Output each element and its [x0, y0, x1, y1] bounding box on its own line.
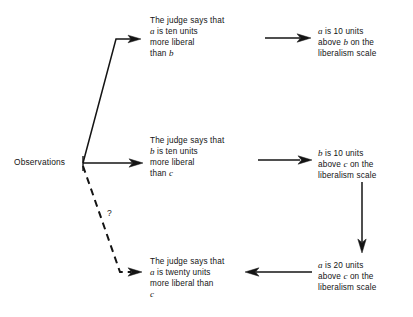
- node-scale-bc-line1-text: is 10 units: [323, 149, 364, 158]
- node-judge-bc-line1: The judge says that: [150, 136, 224, 146]
- node-judge-bc-line2-text: is ten units: [155, 147, 198, 156]
- node-judge-says-a-twenty-units: The judge says that a is twenty units mo…: [150, 257, 224, 300]
- node-judge-bc-line3: more liberal: [150, 158, 224, 168]
- node-judge-bc-line4-text: than: [150, 169, 169, 178]
- node-scale-b-above-c: b is 10 units above c on the liberalism …: [318, 148, 376, 181]
- node-judge-ac-line3: more liberal than: [150, 279, 224, 289]
- node-observations-label: Observations: [14, 157, 65, 167]
- variable-c: c: [150, 289, 154, 299]
- node-judge-ac-line2-text: is twenty units: [155, 268, 211, 277]
- node-scale-a-above-b: a is 10 units above b on the liberalism …: [318, 26, 376, 59]
- edge-observations-to-judge-ac: [83, 166, 142, 276]
- node-judge-bc-line2: b is ten units: [150, 146, 224, 157]
- edge-observations-to-judge-ab: [83, 35, 141, 163]
- node-judge-says-a-ten-units: The judge says that a is ten units more …: [150, 16, 224, 59]
- node-judge-ac-line4: c: [150, 289, 224, 300]
- node-judge-ab-line2: a is ten units: [150, 26, 224, 37]
- node-scale-ab-line3: liberalism scale: [318, 49, 376, 59]
- node-judge-ab-line3: more liberal: [150, 38, 224, 48]
- node-scale-ac-line2-pre: above: [318, 272, 343, 281]
- node-scale-ac-line1-text: is 20 units: [323, 261, 364, 270]
- node-scale-ab-line1-text: is 10 units: [323, 27, 364, 36]
- node-scale-a-above-c: a is 20 units above c on the liberalism …: [318, 260, 376, 293]
- edge-scale-ac-to-judge-ac: [245, 268, 312, 276]
- node-scale-ac-line2-post: on the: [347, 272, 373, 281]
- node-judge-says-b-ten-units: The judge says that b is ten units more …: [150, 136, 224, 179]
- node-judge-ac-line2: a is twenty units: [150, 267, 224, 278]
- node-scale-ab-line1: a is 10 units: [318, 26, 376, 37]
- edge-label-question-mark: ?: [107, 208, 112, 218]
- node-judge-ab-line4-text: than: [150, 49, 169, 58]
- edge-judge-bc-to-scale-bc: [258, 156, 312, 164]
- arrowhead-icon: [298, 156, 312, 164]
- edge-scale-bc-to-scale-ac: [358, 182, 366, 253]
- variable-c: c: [169, 168, 173, 178]
- edge-judge-ab-to-scale-ab: [265, 34, 311, 42]
- node-scale-ac-line2: above c on the: [318, 271, 376, 282]
- node-scale-bc-line2-pre: above: [318, 160, 343, 169]
- edge-observations-to-judge-bc: [83, 159, 143, 167]
- node-scale-ab-line2: above b on the: [318, 37, 376, 48]
- node-scale-ab-line2-post: on the: [348, 38, 374, 47]
- node-scale-bc-line3: liberalism scale: [318, 171, 376, 181]
- flow-diagram: Observations The judge says that a is te…: [0, 0, 413, 317]
- node-scale-bc-line1: b is 10 units: [318, 148, 376, 159]
- node-scale-ac-line1: a is 20 units: [318, 260, 376, 271]
- node-judge-ab-line4: than b: [150, 48, 224, 59]
- node-judge-ac-line1: The judge says that: [150, 257, 224, 267]
- variable-b: b: [169, 48, 174, 58]
- node-scale-ac-line3: liberalism scale: [318, 283, 376, 293]
- node-judge-bc-line4: than c: [150, 168, 224, 179]
- node-scale-bc-line2: above c on the: [318, 159, 376, 170]
- node-scale-ab-line2-pre: above: [318, 38, 343, 47]
- node-observations: Observations: [14, 157, 65, 167]
- node-judge-ab-line2-text: is ten units: [155, 27, 198, 36]
- node-judge-ab-line1: The judge says that: [150, 16, 224, 26]
- node-scale-bc-line2-post: on the: [347, 160, 373, 169]
